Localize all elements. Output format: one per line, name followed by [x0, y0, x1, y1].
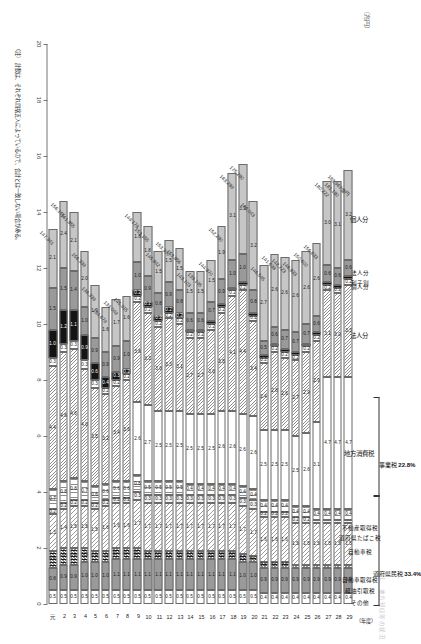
year-label: 10	[145, 614, 151, 620]
bar-segment-value: 1.1	[123, 572, 129, 577]
bar-segment: 0.3	[185, 495, 194, 503]
year-label: 16	[209, 614, 215, 620]
bar-segment: 0.4	[291, 593, 300, 604]
bar-segment: 1.1	[206, 559, 215, 590]
bar-segment: 0.9	[217, 279, 226, 304]
year-label: 13	[177, 614, 183, 620]
bar-segment-value: 2.5	[260, 463, 266, 468]
bar-segment-value: 0.2	[123, 498, 129, 503]
bar-segment-value: 0.9	[323, 578, 329, 583]
bar-segment-value: 2.7	[186, 373, 192, 378]
bar-segment: 0.4	[185, 484, 194, 495]
bar-segment-value: 2.6	[228, 445, 234, 450]
bar-segment: 0.8	[153, 293, 162, 315]
bar-segment-value: 0.5	[60, 595, 66, 600]
bar-segment: 3.3	[164, 318, 173, 410]
bar-segment: 0.5	[175, 590, 184, 604]
bar-segment-value: 0.2	[281, 562, 287, 567]
axis-tick	[43, 156, 47, 157]
bar-segment: 2.8	[270, 352, 279, 430]
bar-segment-value: 1.3	[49, 530, 55, 535]
bar-segment: 1.0	[122, 341, 131, 369]
bar-segment-value: 3.1	[176, 365, 182, 370]
bar-segment-value: 0.7	[49, 497, 55, 502]
bar-segment-value: 0.7	[281, 337, 287, 342]
bar-segment: 1.5	[80, 506, 89, 548]
bar-segment: 0.3	[227, 551, 236, 559]
bar-segment: 0.3	[164, 551, 173, 559]
bar-segment: 1.1	[111, 559, 120, 590]
bar-segment: 0.7	[206, 302, 215, 322]
category-label: 個人分	[350, 283, 368, 291]
bar-row: 1.50.90.20.23.32.50.50.31.70.31.10.5	[164, 240, 173, 604]
bar-segment: 1.0	[238, 254, 247, 282]
bar-segment-value: 1.6	[102, 526, 108, 531]
bar-segment: 1.5	[291, 523, 300, 565]
category-label: 軽油引取税	[344, 587, 374, 595]
bar-segment-value: 0.3	[218, 497, 224, 502]
bar-segment-value: 0.2	[250, 316, 256, 321]
bar-segment: 0.4	[196, 484, 205, 495]
bar-segment-value: 1.5	[60, 287, 66, 292]
bar-row: 1.90.90.23.52.60.40.31.70.31.10.5	[217, 226, 226, 604]
bar-segment: 3.4	[248, 321, 257, 416]
bar-segment-value: 1.6	[260, 537, 266, 542]
bar-segment: 0.5	[59, 590, 68, 604]
bar-segment-value: 1.0	[239, 574, 245, 579]
bar-segment-value: 4.0	[81, 422, 87, 427]
bar-segment: 0.4	[259, 593, 268, 604]
bar-segment-value: 3.2	[102, 436, 108, 441]
bar-segment-value: 0.7	[81, 488, 87, 493]
bar-segment: 0.5	[111, 590, 120, 604]
bar-segment-value: 2.6	[218, 445, 224, 450]
bar-segment: 1.1	[196, 559, 205, 590]
bar-segment: 0.3	[59, 344, 68, 352]
category-label: 不動産取得税	[341, 524, 377, 532]
bar-segment-value: 0.4	[260, 504, 266, 509]
bar-segment: 0.8	[175, 290, 184, 312]
bar-segment: 2.7	[185, 338, 194, 414]
bar-segment-value: 1.7	[239, 527, 245, 532]
year-label: 19	[240, 614, 246, 620]
bar-segment: 0.5	[101, 590, 110, 604]
bar-segment-value: 0.9	[60, 575, 66, 580]
year-label: 17	[219, 614, 225, 620]
year-label: 3	[73, 613, 76, 619]
bar-segment: 2.5	[153, 411, 162, 481]
bar-segment-value: 0.2	[281, 512, 287, 517]
bar-segment-value: 2.0	[81, 277, 87, 282]
bar-row: 1.50.60.22.72.50.40.31.70.31.10.5	[185, 271, 194, 604]
bar-segment: 0.7	[280, 330, 289, 350]
bar-segment-value: 0.5	[176, 595, 182, 600]
bar-row: 3.00.60.23.14.70.41.50.90.4	[322, 181, 331, 604]
bar-segment-value: 4.6	[70, 411, 76, 416]
bar-segment: 0.3	[90, 380, 99, 388]
bar-segment: 0.5	[248, 590, 257, 604]
bar-segment-value: 0.9	[91, 348, 97, 353]
bar-segment: 1.1	[122, 559, 131, 590]
bar-segment: 0.9	[164, 282, 173, 307]
bar-segment-value: 0.3	[239, 555, 245, 560]
group-bracket	[373, 397, 379, 497]
bar-row: 3.21.00.24.42.60.40.31.70.31.00.5	[238, 164, 247, 604]
bar-segment-value: 0.5	[49, 595, 55, 600]
bar-segment: 3.0	[333, 293, 342, 377]
bar-segment: 1.5	[90, 509, 99, 551]
bar-segment-value: 0.4	[102, 380, 108, 385]
bar-segment-value: 0.4	[186, 487, 192, 492]
bar-segment: 0.3	[227, 495, 236, 503]
bar-segment-value: 0.3	[91, 382, 97, 387]
bar-segment-value: 0.2	[186, 333, 192, 338]
bar-segment-value: 0.3	[228, 497, 234, 502]
bar-segment-value: 1.0	[239, 266, 245, 271]
year-label: 15	[198, 614, 204, 620]
bar-segment: 0.3	[111, 372, 120, 380]
bar-segment: 2.9	[301, 352, 310, 433]
bar-segment: 2.5	[291, 436, 300, 506]
bar-segment: 2.4	[259, 363, 268, 430]
bar-segment-value: 0.9	[260, 578, 266, 583]
bar-segment-value: 0.2	[271, 347, 277, 352]
bar-segment-value: 0.2	[271, 512, 277, 517]
bar-segment-value: 0.4	[313, 596, 319, 601]
bar-segment-value: 0.3	[186, 497, 192, 502]
